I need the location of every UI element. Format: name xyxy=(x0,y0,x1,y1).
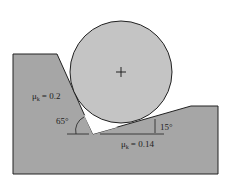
left-angle-label: 65° xyxy=(56,116,69,126)
left-mu-label: μk= 0.2 xyxy=(32,91,60,102)
right-angle-label: 15° xyxy=(160,122,173,132)
friction-diagram: μk= 0.2 65° 15° μk= 0.14 xyxy=(0,0,230,184)
